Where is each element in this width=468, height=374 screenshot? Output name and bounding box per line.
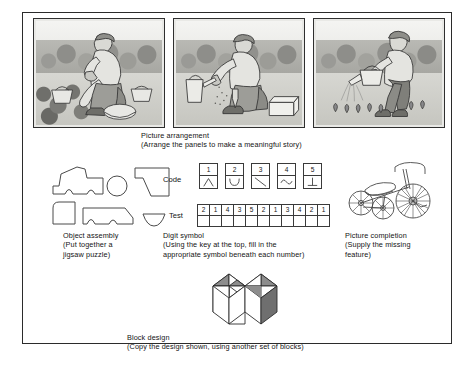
test-column[interactable]: 1 — [318, 205, 329, 226]
test-column[interactable]: 3 — [282, 205, 294, 226]
test-digit: 2 — [258, 205, 269, 216]
test-column[interactable]: 3 — [234, 205, 246, 226]
test-column[interactable]: 5 — [246, 205, 258, 226]
wave-symbol — [278, 176, 295, 188]
test-column[interactable]: 2 — [198, 205, 210, 226]
test-digit: 3 — [234, 205, 245, 216]
test-column[interactable]: 2 — [258, 205, 270, 226]
picture-arrangement-panels — [33, 18, 445, 128]
test-column[interactable]: 4 — [294, 205, 306, 226]
test-digit: 1 — [270, 205, 281, 216]
piece-small-bowl — [143, 214, 165, 226]
cup-symbol — [226, 176, 243, 188]
object-assembly-pieces[interactable] — [47, 156, 175, 228]
backslash-symbol — [252, 176, 269, 188]
test-digit: 4 — [222, 205, 233, 216]
panel-sowing[interactable] — [173, 18, 305, 128]
test-digit: 2 — [306, 205, 317, 216]
kneeling-man-harvesting-icon — [36, 21, 162, 125]
code-digit: 5 — [304, 164, 321, 176]
panel-harvesting[interactable] — [33, 18, 165, 128]
piece-chassis — [83, 208, 133, 224]
test-column[interactable]: 2 — [306, 205, 318, 226]
test-answer-cell[interactable] — [246, 216, 257, 226]
test-answer-cell[interactable] — [222, 216, 233, 226]
test-digit: 1 — [318, 205, 329, 216]
test-answer-cell[interactable] — [270, 216, 281, 226]
test-digit: 5 — [246, 205, 257, 216]
caption-digit-symbol: Digit symbol (Using the key at the top, … — [163, 231, 348, 259]
test-answer-cell[interactable] — [210, 216, 221, 226]
test-answer-cell[interactable] — [294, 216, 305, 226]
code-cell-2[interactable]: 2 — [225, 163, 244, 189]
test-digit: 2 — [198, 205, 209, 216]
piece-wheel-circle — [107, 176, 127, 196]
panel-harvesting-scene — [36, 21, 162, 125]
panel-watering-scene — [316, 21, 442, 125]
tricycle-icon[interactable] — [341, 155, 449, 229]
test-answer-grid[interactable]: 2 1 4 3 5 2 1 — [197, 204, 330, 227]
panel-sowing-scene — [176, 21, 302, 125]
test-digit: 3 — [282, 205, 293, 216]
code-cell-5[interactable]: 5 — [303, 163, 322, 189]
piece-cab-corner — [53, 202, 75, 224]
caption-picture-arrangement: Picture arrangement (Arrange the panels … — [141, 131, 391, 150]
code-cell-1[interactable]: 1 — [199, 163, 218, 189]
digit-symbol-task: Code Test 1 2 3 4 — [163, 161, 323, 226]
code-label: Code — [163, 175, 181, 184]
block-design-cubes-icon[interactable] — [203, 268, 293, 330]
code-digit: 4 — [278, 164, 295, 176]
caret-symbol — [200, 176, 217, 188]
test-answer-cell[interactable] — [234, 216, 245, 226]
piece-tractor-body — [53, 167, 103, 194]
test-answer-cell[interactable] — [318, 216, 329, 226]
kneeling-man-sowing-icon — [176, 21, 302, 125]
standing-man-watering-icon — [316, 21, 442, 125]
caption-block-design: Block design (Copy the design shown, usi… — [127, 333, 367, 352]
test-answer-cell[interactable] — [306, 216, 317, 226]
code-digit: 1 — [200, 164, 217, 176]
tee-symbol — [304, 176, 321, 188]
code-cell-3[interactable]: 3 — [251, 163, 270, 189]
test-answer-cell[interactable] — [258, 216, 269, 226]
test-column[interactable]: 4 — [222, 205, 234, 226]
test-digit: 4 — [294, 205, 305, 216]
test-digit: 1 — [210, 205, 221, 216]
code-cell-4[interactable]: 4 — [277, 163, 296, 189]
test-label: Test — [169, 211, 183, 220]
test-column[interactable]: 1 — [210, 205, 222, 226]
code-key-row: 1 2 3 4 — [199, 163, 322, 189]
panel-watering[interactable] — [313, 18, 445, 128]
caption-picture-completion: Picture completion (Supply the missing f… — [345, 231, 455, 259]
test-answer-cell[interactable] — [282, 216, 293, 226]
figure-frame: Picture arrangement (Arrange the panels … — [22, 12, 452, 344]
test-column[interactable]: 1 — [270, 205, 282, 226]
test-answer-cell[interactable] — [198, 216, 209, 226]
code-digit: 2 — [226, 164, 243, 176]
code-digit: 3 — [252, 164, 269, 176]
